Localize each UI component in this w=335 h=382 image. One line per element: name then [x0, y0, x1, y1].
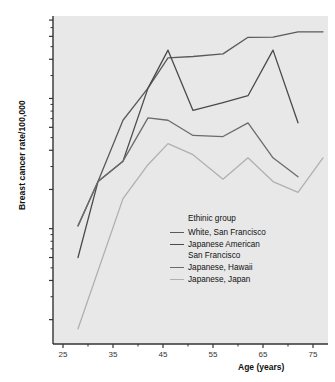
legend-entry-label: White, San Francisco [188, 228, 266, 237]
plot-background [53, 16, 328, 344]
chart-legend: Ethinic group White, San FranciscoJapane… [170, 214, 266, 285]
legend-line-swatch [170, 244, 184, 245]
legend-line-swatch [170, 279, 184, 280]
legend-entry-label: Japanese, Hawaii [188, 263, 253, 272]
legend-entry: Japanese American [170, 238, 266, 250]
chart-figure: Breast cancer rate/100,000 Age (years) 2… [0, 0, 335, 382]
legend-line-swatch [170, 232, 184, 233]
legend-entry-label: Japanese, Japan [188, 275, 250, 284]
legend-entry-label-continuation: San Francisco [188, 250, 266, 261]
legend-line-swatch [170, 267, 184, 268]
plot-canvas [0, 0, 335, 382]
legend-entry-label: Japanese American [188, 240, 260, 249]
legend-title: Ethinic group [188, 214, 266, 223]
legend-entry: Japanese, Hawaii [170, 261, 266, 273]
legend-entry: White, San Francisco [170, 226, 266, 238]
legend-entry: Japanese, Japan [170, 273, 266, 285]
